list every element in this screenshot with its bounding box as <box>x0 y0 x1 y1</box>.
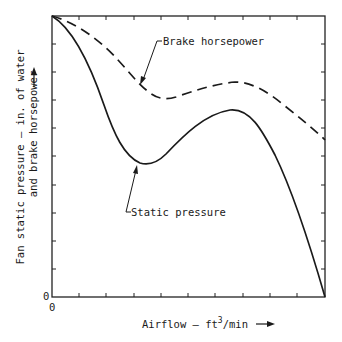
chart: Brake horsepower Static pressure 0 0 Air… <box>0 0 342 342</box>
x-axis-arrow-icon <box>256 321 275 327</box>
x-axis-label-tail: /min <box>223 318 248 330</box>
x-origin-label: 0 <box>49 301 55 313</box>
plot-frame <box>52 16 325 297</box>
x-axis-label-main: Airflow — ft <box>142 318 218 330</box>
brake-horsepower-leader <box>140 41 162 85</box>
static-pressure-label: Static pressure <box>131 206 226 218</box>
static-pressure-curve <box>52 16 325 297</box>
brake-horsepower-label: Brake horsepower <box>163 35 264 47</box>
y-axis-label-line2: and brake horsepower <box>27 71 39 197</box>
static-pressure-leader <box>126 165 138 212</box>
y-axis-label-line1: Fan static pressure — in. of water <box>14 50 26 265</box>
x-axis-label: Airflow — ft3/min <box>142 316 248 330</box>
